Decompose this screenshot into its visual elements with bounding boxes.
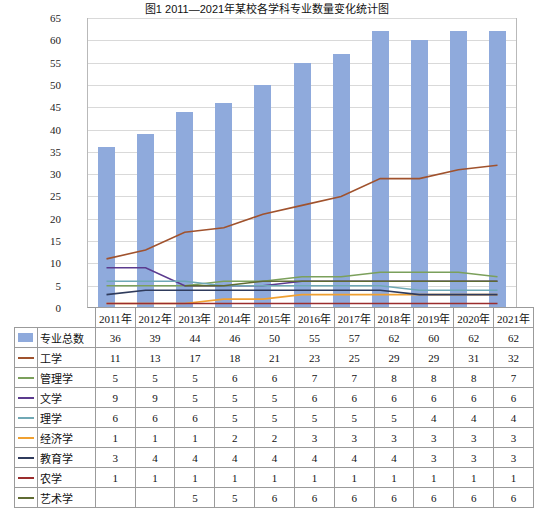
data-cell: 1: [494, 468, 534, 488]
data-cell: 4: [294, 448, 334, 468]
data-cell: 5: [175, 368, 215, 388]
series-name-cell: 工学: [37, 348, 95, 368]
y-tick-label: 45: [37, 107, 61, 118]
table-header-year: 2020年: [454, 308, 494, 328]
data-cell: 4: [454, 408, 494, 428]
line-series-layer: [87, 18, 517, 308]
data-cell: 2: [215, 428, 255, 448]
table-header-year: 2011年: [95, 308, 135, 328]
series-name-cell: 理学: [37, 408, 95, 428]
data-cell: 4: [135, 448, 175, 468]
data-cell: 3: [414, 428, 454, 448]
y-tick-label: 20: [37, 219, 61, 230]
data-cell: 5: [215, 488, 255, 508]
data-cell: 6: [494, 488, 534, 508]
data-cell: 1: [95, 428, 135, 448]
data-cell: [135, 488, 175, 508]
data-cell: 4: [374, 448, 414, 468]
data-cell: 9: [135, 388, 175, 408]
data-cell: 5: [374, 408, 414, 428]
legend-swatch-cell: [15, 448, 38, 468]
data-cell: 4: [255, 448, 295, 468]
data-cell: 6: [454, 388, 494, 408]
data-cell: 5: [255, 388, 295, 408]
data-cell: 29: [414, 348, 454, 368]
data-cell: 4: [334, 448, 374, 468]
table-row: 经济学11122333333: [15, 428, 534, 448]
y-tick-label: 10: [37, 263, 61, 274]
data-cell: 31: [454, 348, 494, 368]
legend-line-icon: [18, 377, 34, 379]
data-cell: 6: [255, 368, 295, 388]
legend-swatch-cell: [15, 468, 38, 488]
data-cell: 3: [334, 428, 374, 448]
series-name-cell: 管理学: [37, 368, 95, 388]
data-table: 2011年2012年2013年2014年2015年2016年2017年2018年…: [14, 307, 534, 508]
data-cell: 36: [95, 328, 135, 348]
data-cell: 11: [95, 348, 135, 368]
data-cell: 1: [175, 468, 215, 488]
data-cell: 5: [175, 488, 215, 508]
table-header-year: 2021年: [494, 308, 534, 328]
data-cell: 5: [95, 368, 135, 388]
data-cell: 5: [334, 408, 374, 428]
table-row: 文学99555666666: [15, 388, 534, 408]
chart-title: 图1 2011—2021年某校各学科专业数量变化统计图: [0, 0, 534, 16]
data-cell: 25: [334, 348, 374, 368]
y-tick-label: 25: [37, 196, 61, 207]
data-cell: 1: [374, 468, 414, 488]
table-header-year: 2018年: [374, 308, 414, 328]
table-row: 管理学55566778887: [15, 368, 534, 388]
data-cell: 6: [294, 388, 334, 408]
legend-swatch-cell: [15, 488, 38, 508]
y-tick-label: 15: [37, 241, 61, 252]
table-row: 理学66655555444: [15, 408, 534, 428]
data-cell: 4: [494, 408, 534, 428]
data-cell: 7: [494, 368, 534, 388]
legend-line-icon: [18, 497, 34, 499]
table-header-year: 2017年: [334, 308, 374, 328]
data-cell: 6: [494, 388, 534, 408]
data-cell: 5: [255, 408, 295, 428]
table-row: 艺术学556666666: [15, 488, 534, 508]
plot-area: 05101520253035404550556065: [65, 18, 517, 308]
legend-line-icon: [18, 437, 34, 439]
data-cell: 32: [494, 348, 534, 368]
table-header-year: 2015年: [255, 308, 295, 328]
data-cell: 4: [414, 408, 454, 428]
data-cell: 5: [135, 368, 175, 388]
table-row: 专业总数3639444650555762606262: [15, 328, 534, 348]
data-cell: 1: [95, 468, 135, 488]
data-cell: 5: [215, 408, 255, 428]
data-cell: 1: [135, 428, 175, 448]
data-cell: 1: [215, 468, 255, 488]
data-cell: 8: [374, 368, 414, 388]
data-cell: 6: [414, 488, 454, 508]
series-name-cell: 艺术学: [37, 488, 95, 508]
data-cell: 21: [255, 348, 295, 368]
legend-swatch-cell: [15, 408, 38, 428]
data-cell: 60: [414, 328, 454, 348]
legend-swatch-cell: [15, 428, 38, 448]
legend-swatch-cell: [15, 388, 38, 408]
series-name-cell: 经济学: [37, 428, 95, 448]
data-cell: 2: [255, 428, 295, 448]
legend-line-icon: [18, 357, 34, 359]
y-tick-label: 30: [37, 174, 61, 185]
y-tick-label: 40: [37, 130, 61, 141]
data-cell: 6: [374, 388, 414, 408]
series-name-cell: 教育学: [37, 448, 95, 468]
data-cell: 5: [175, 388, 215, 408]
table-header-blank: [37, 308, 95, 328]
line-series: [107, 295, 498, 304]
data-cell: 1: [454, 468, 494, 488]
legend-line-icon: [18, 417, 34, 419]
table-row: 教育学34444444333: [15, 448, 534, 468]
data-cell: 6: [454, 488, 494, 508]
data-cell: 1: [414, 468, 454, 488]
data-cell: 6: [374, 488, 414, 508]
table-row: 工学1113171821232529293132: [15, 348, 534, 368]
y-tick-label: 5: [37, 286, 61, 297]
data-cell: 5: [215, 388, 255, 408]
series-name-cell: 农学: [37, 468, 95, 488]
